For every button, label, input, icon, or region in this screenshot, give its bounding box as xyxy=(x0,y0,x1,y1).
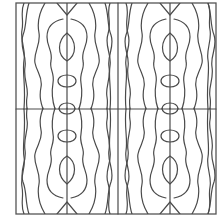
pattern-artwork xyxy=(0,0,222,218)
